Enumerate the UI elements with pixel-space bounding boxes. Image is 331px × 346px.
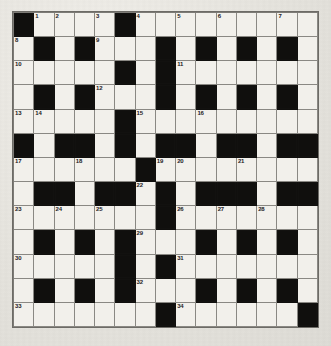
open-cell[interactable] (75, 13, 95, 37)
open-cell[interactable] (95, 61, 115, 85)
open-cell[interactable] (196, 158, 216, 182)
open-cell[interactable] (176, 37, 196, 61)
open-cell[interactable] (257, 230, 277, 254)
open-cell[interactable] (75, 110, 95, 134)
open-cell[interactable] (176, 279, 196, 303)
open-cell[interactable] (156, 279, 176, 303)
open-cell[interactable]: 28 (257, 206, 277, 230)
open-cell[interactable] (217, 255, 237, 279)
open-cell[interactable]: 25 (95, 206, 115, 230)
open-cell[interactable] (298, 206, 318, 230)
open-cell[interactable] (298, 158, 318, 182)
open-cell[interactable] (257, 182, 277, 206)
open-cell[interactable]: 13 (14, 110, 34, 134)
open-cell[interactable] (237, 255, 257, 279)
open-cell[interactable]: 14 (34, 110, 54, 134)
open-cell[interactable] (257, 134, 277, 158)
open-cell[interactable]: 34 (176, 303, 196, 327)
open-cell[interactable] (217, 230, 237, 254)
open-cell[interactable]: 32 (136, 279, 156, 303)
open-cell[interactable]: 5 (176, 13, 196, 37)
open-cell[interactable] (196, 303, 216, 327)
open-cell[interactable] (298, 255, 318, 279)
open-cell[interactable] (115, 206, 135, 230)
open-cell[interactable] (257, 85, 277, 109)
open-cell[interactable] (196, 61, 216, 85)
open-cell[interactable] (95, 134, 115, 158)
open-cell[interactable] (75, 61, 95, 85)
crossword-puzzle[interactable]: 1234567891011121314151617181920212223242… (13, 12, 318, 327)
open-cell[interactable]: 23 (14, 206, 34, 230)
open-cell[interactable]: 7 (277, 13, 297, 37)
open-cell[interactable]: 17 (14, 158, 34, 182)
open-cell[interactable]: 33 (14, 303, 34, 327)
open-cell[interactable] (55, 158, 75, 182)
open-cell[interactable] (95, 279, 115, 303)
open-cell[interactable] (95, 158, 115, 182)
open-cell[interactable]: 18 (75, 158, 95, 182)
open-cell[interactable]: 31 (176, 255, 196, 279)
open-cell[interactable] (237, 110, 257, 134)
open-cell[interactable] (55, 110, 75, 134)
open-cell[interactable] (298, 61, 318, 85)
open-cell[interactable] (217, 303, 237, 327)
open-cell[interactable] (257, 279, 277, 303)
open-cell[interactable]: 27 (217, 206, 237, 230)
open-cell[interactable] (237, 303, 257, 327)
open-cell[interactable] (257, 110, 277, 134)
open-cell[interactable] (196, 206, 216, 230)
open-cell[interactable] (196, 13, 216, 37)
open-cell[interactable] (156, 110, 176, 134)
open-cell[interactable] (75, 303, 95, 327)
open-cell[interactable] (277, 255, 297, 279)
open-cell[interactable] (34, 255, 54, 279)
open-cell[interactable] (298, 13, 318, 37)
open-cell[interactable] (257, 255, 277, 279)
open-cell[interactable] (14, 182, 34, 206)
open-cell[interactable]: 16 (196, 110, 216, 134)
open-cell[interactable] (55, 279, 75, 303)
open-cell[interactable] (115, 303, 135, 327)
open-cell[interactable]: 26 (176, 206, 196, 230)
open-cell[interactable] (277, 110, 297, 134)
open-cell[interactable] (14, 230, 34, 254)
open-cell[interactable]: 3 (95, 13, 115, 37)
open-cell[interactable] (257, 303, 277, 327)
open-cell[interactable] (115, 158, 135, 182)
open-cell[interactable] (298, 279, 318, 303)
open-cell[interactable]: 24 (55, 206, 75, 230)
open-cell[interactable]: 6 (217, 13, 237, 37)
open-cell[interactable]: 22 (136, 182, 156, 206)
open-cell[interactable] (277, 61, 297, 85)
open-cell[interactable] (277, 206, 297, 230)
open-cell[interactable] (136, 206, 156, 230)
open-cell[interactable] (156, 230, 176, 254)
open-cell[interactable] (217, 279, 237, 303)
open-cell[interactable] (95, 255, 115, 279)
open-cell[interactable] (196, 255, 216, 279)
open-cell[interactable] (196, 134, 216, 158)
open-cell[interactable] (237, 206, 257, 230)
open-cell[interactable]: 4 (136, 13, 156, 37)
open-cell[interactable] (217, 37, 237, 61)
open-cell[interactable] (95, 110, 115, 134)
open-cell[interactable] (257, 13, 277, 37)
open-cell[interactable] (55, 37, 75, 61)
open-cell[interactable]: 8 (14, 37, 34, 61)
open-cell[interactable] (257, 158, 277, 182)
open-cell[interactable]: 11 (176, 61, 196, 85)
open-cell[interactable]: 12 (95, 85, 115, 109)
open-cell[interactable] (277, 303, 297, 327)
open-cell[interactable] (217, 110, 237, 134)
open-cell[interactable] (176, 230, 196, 254)
open-cell[interactable]: 29 (136, 230, 156, 254)
open-cell[interactable] (34, 206, 54, 230)
open-cell[interactable]: 15 (136, 110, 156, 134)
open-cell[interactable]: 20 (176, 158, 196, 182)
open-cell[interactable] (257, 37, 277, 61)
open-cell[interactable]: 30 (14, 255, 34, 279)
open-cell[interactable]: 21 (237, 158, 257, 182)
open-cell[interactable]: 2 (55, 13, 75, 37)
crossword-grid[interactable]: 1234567891011121314151617181920212223242… (13, 12, 318, 327)
open-cell[interactable] (176, 110, 196, 134)
